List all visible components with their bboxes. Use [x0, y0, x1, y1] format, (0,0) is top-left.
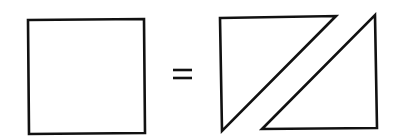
equals-sign — [173, 70, 192, 78]
square-shape — [28, 19, 145, 134]
square-equals-two-triangles-diagram — [0, 0, 393, 139]
